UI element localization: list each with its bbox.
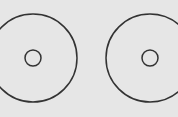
diagram-canvas [0,0,178,117]
background [0,0,178,117]
